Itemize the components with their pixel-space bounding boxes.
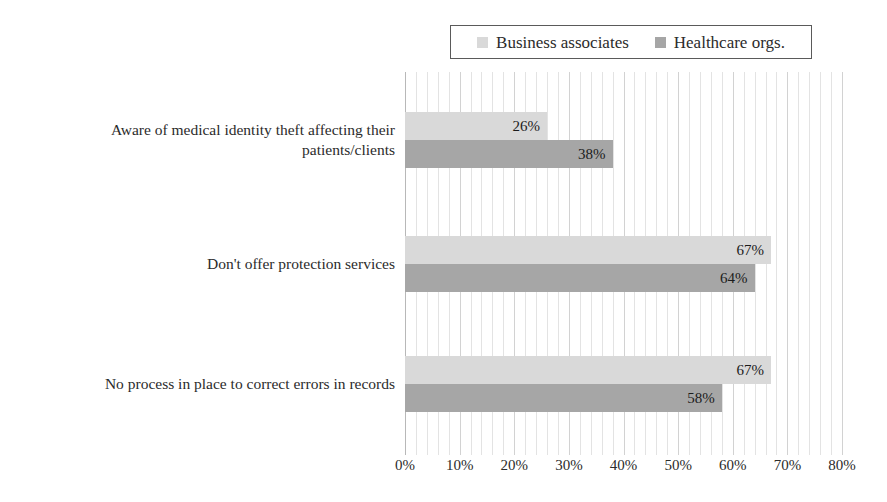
legend-label-business-associates: Business associates [496,34,629,51]
category-label-line: Don't offer protection services [10,254,395,274]
x-axis-tick-labels: 0%10%20%30%40%50%60%70%80% [405,458,842,482]
category-label-line: patients/clients [10,140,395,160]
gridline-major [842,72,843,455]
bar: 64% [405,264,755,292]
legend-swatch-business-associates [477,37,488,48]
category-label: No process in place to correct errors in… [10,374,395,394]
x-axis-tick-label: 30% [555,458,583,473]
legend-label-healthcare-orgs: Healthcare orgs. [674,34,785,51]
x-axis-tick-label: 40% [610,458,638,473]
bar: 67% [405,356,771,384]
bar-value-label: 67% [736,243,764,258]
x-axis-tick-label: 10% [446,458,474,473]
bar-value-label: 26% [513,119,541,134]
bar: 58% [405,384,722,412]
legend-entry-healthcare-orgs: Healthcare orgs. [655,34,785,51]
category-axis-labels: Aware of medical identity theft affectin… [0,72,395,455]
x-axis-tick-label: 20% [501,458,529,473]
category-label-line: Aware of medical identity theft affectin… [10,120,395,140]
legend-entry-business-associates: Business associates [477,34,629,51]
x-axis-tick-label: 70% [774,458,802,473]
bar-value-label: 67% [736,363,764,378]
x-axis-tick-label: 80% [828,458,856,473]
x-axis-tick-label: 0% [395,458,415,473]
x-axis-tick-label: 60% [719,458,747,473]
category-label: Don't offer protection services [10,254,395,274]
bar: 38% [405,140,613,168]
bar-series-container: 26%38%67%64%67%58% [405,72,842,455]
bar: 26% [405,112,547,140]
bar-value-label: 38% [578,147,606,162]
x-axis-tick-label: 50% [664,458,692,473]
bar-value-label: 58% [687,391,715,406]
category-label: Aware of medical identity theft affectin… [10,120,395,161]
chart-legend: Business associates Healthcare orgs. [450,25,812,59]
bar-value-label: 64% [720,271,748,286]
legend-swatch-healthcare-orgs [655,37,666,48]
category-label-line: No process in place to correct errors in… [10,374,395,394]
bar: 67% [405,236,771,264]
plot-area: 26%38%67%64%67%58% [405,72,842,455]
